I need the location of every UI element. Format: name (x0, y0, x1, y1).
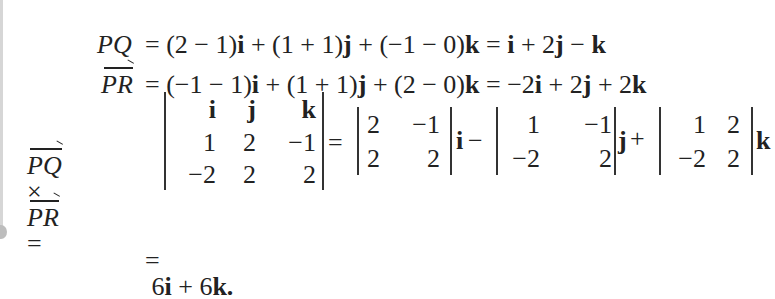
det-cell: 1 (196, 130, 216, 156)
minor-cell: −1 (400, 112, 440, 138)
minor-cell: −2 (500, 146, 540, 172)
unit-j: j (618, 128, 627, 154)
equals-sign: = (328, 130, 343, 156)
minor-cell: −1 (560, 112, 612, 138)
eq4: = 6i + 6k. (132, 222, 233, 299)
det-right-bar (322, 92, 324, 190)
vector-pr: PR (101, 72, 133, 98)
margin-dot (0, 225, 7, 239)
minor-cell: 2 (400, 146, 440, 172)
eq3-lhs: PQ × PR = (14, 127, 62, 257)
det-cell: 2 (290, 162, 316, 188)
equals-sign: = (145, 246, 160, 275)
minor-cell: −2 (670, 146, 706, 172)
det-cell: j (236, 97, 256, 123)
minor-cell: 2 (712, 146, 740, 172)
margin-line (0, 0, 3, 232)
vector-pq: PQ (27, 153, 62, 179)
minor-cell: 1 (500, 112, 540, 138)
minor-k-right-bar (751, 107, 753, 175)
det-cell: i (196, 97, 216, 123)
det-cell: −2 (170, 162, 216, 188)
minor-cell: 2 (712, 112, 740, 138)
minor-j-left-bar (496, 107, 498, 175)
cross-symbol: × (27, 177, 42, 206)
equals-sign: = (27, 229, 42, 258)
minor-cell: 2 (362, 112, 380, 138)
minor-cell: 1 (670, 112, 706, 138)
plus-sign: + (630, 126, 645, 152)
eq2-lhs: PR (88, 46, 133, 98)
det-cell: 2 (236, 130, 256, 156)
minor-cell: 2 (362, 146, 380, 172)
unit-i: i (456, 128, 463, 154)
minor-j-right-bar (614, 107, 616, 175)
det-cell: −1 (270, 130, 316, 156)
det-cell: 2 (236, 162, 256, 188)
eq2-rhs: = (−1 − 1)i + (1 + 1)j + (2 − 0)k = −2i … (132, 46, 647, 98)
unit-k: k (756, 128, 770, 154)
minor-i-right-bar (450, 107, 452, 175)
minor-cell: 2 (560, 146, 612, 172)
det-cell: k (290, 97, 316, 123)
vector-pr: PR (27, 205, 59, 231)
minor-i-left-bar (357, 107, 359, 175)
minus-sign: − (468, 128, 483, 154)
minor-k-left-bar (659, 107, 661, 175)
det-left-bar (164, 92, 166, 190)
